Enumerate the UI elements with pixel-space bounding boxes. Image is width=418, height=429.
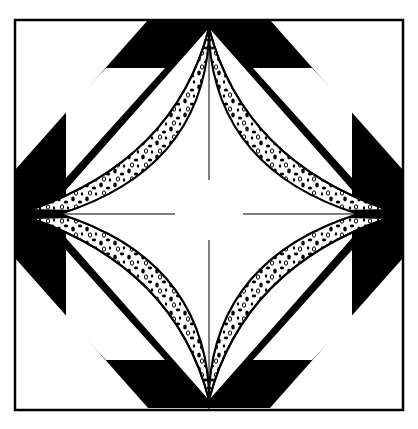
center-gap-h — [175, 210, 243, 218]
quilt-block-illustration — [0, 0, 418, 429]
